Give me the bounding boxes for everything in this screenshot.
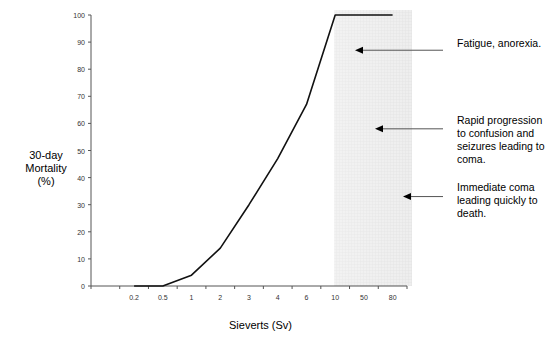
y-tick-label: 10 (77, 256, 85, 263)
x-tick-label: 4 (276, 294, 280, 301)
y-tick-label: 40 (77, 175, 85, 182)
x-tick-label: 10 (331, 294, 339, 301)
annotation-text: Fatigue, anorexia. (457, 37, 541, 50)
x-tick-label: 2 (218, 294, 222, 301)
y-tick-label: 0 (81, 283, 85, 290)
x-axis-title: Sieverts (Sv) (229, 319, 292, 331)
y-tick-label: 30 (77, 202, 85, 209)
shaded-region (334, 10, 412, 286)
y-tick-label: 100 (73, 12, 85, 19)
x-tick-label: 50 (360, 294, 368, 301)
mortality-chart: 0102030405060708090100 0.20.512346105080 (0, 0, 549, 339)
y-tick-label: 20 (77, 229, 85, 236)
x-tick-label: 1 (190, 294, 194, 301)
x-tick-label: 0.2 (129, 294, 139, 301)
annotation-text: Rapid progression to confusion and seizu… (457, 114, 545, 166)
y-tick-label: 60 (77, 120, 85, 127)
x-tick-label: 6 (305, 294, 309, 301)
x-tick-label: 3 (247, 294, 251, 301)
y-tick-label: 90 (77, 39, 85, 46)
annotation-text: Immediate coma leading quickly to death. (457, 181, 538, 220)
x-tick-label: 0.5 (158, 294, 168, 301)
y-axis-title: 30-day Mortality (%) (14, 149, 78, 188)
y-tick-label: 50 (77, 148, 85, 155)
x-axis: 0.20.512346105080 (91, 286, 407, 301)
y-tick-label: 80 (77, 66, 85, 73)
x-tick-label: 80 (389, 294, 397, 301)
y-tick-label: 70 (77, 93, 85, 100)
